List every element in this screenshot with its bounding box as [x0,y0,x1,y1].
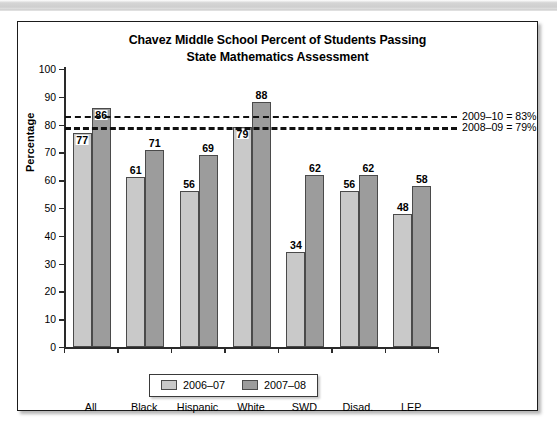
x-axis-tick [385,347,386,353]
y-axis-tick-label: 70 [44,147,56,158]
y-axis-tick [59,236,64,237]
x-axis-category-label: LEP [401,401,421,413]
bar: 71 [145,150,164,347]
x-axis-tick [278,347,279,353]
x-axis-category-label: White [237,401,265,413]
y-axis-tick-label: 80 [44,119,56,130]
bar-value-label: 58 [416,173,428,185]
bar: 34 [286,252,305,347]
reference-line-83 [65,116,457,118]
chart-title-line-1: Chavez Middle School Percent of Students… [129,33,426,47]
legend-label: 2007–08 [264,379,306,391]
chart-title-line-2: State Mathematics Assessment [18,49,537,66]
y-axis-tick-label: 100 [39,64,56,75]
bar: 86 [92,108,111,347]
y-axis-tick-label: 30 [44,258,56,269]
y-axis-tick-label: 60 [44,175,56,186]
x-axis-tick [224,347,225,353]
y-axis-tick-label: 90 [44,91,56,102]
x-axis-tick [438,347,439,353]
y-axis-tick [59,264,64,265]
legend-item: 2007–08 [242,379,306,391]
bar: 56 [180,191,199,347]
bar-value-label: 62 [309,162,321,174]
chart-container: Chavez Middle School Percent of Students… [17,21,538,411]
bar: 62 [305,175,324,347]
x-axis-category-label: SWD [292,401,317,413]
x-axis-tick [331,347,332,353]
y-axis-tick [59,69,64,70]
chart-title: Chavez Middle School Percent of Students… [18,32,537,65]
bar: 48 [393,214,412,347]
reference-line-79 [65,127,457,130]
y-axis-title: Percentage [24,113,36,172]
bar-value-label: 77 [76,135,89,145]
y-axis-tick [59,180,64,181]
bar-value-label: 88 [256,89,268,101]
bar: 69 [199,155,218,347]
bar-value-label: 79 [236,129,249,139]
bar: 58 [412,186,431,347]
scanned-page-edge-line [0,9,557,11]
bar-value-label: 69 [202,142,214,154]
x-axis-tick [117,347,118,353]
y-axis-tick [59,152,64,153]
x-axis-tick [171,347,172,353]
y-axis-tick-label: 50 [44,203,56,214]
bar-value-label: 61 [130,164,142,176]
x-axis-line [64,347,438,349]
bar: 79 [233,127,252,347]
bar-value-label: 48 [397,201,409,213]
bar-value-label: 86 [95,110,108,120]
bar: 77 [73,133,92,347]
legend-swatch [242,380,258,390]
x-axis-category-label: All [85,401,97,413]
bar: 61 [126,177,145,347]
y-axis-tick-label: 20 [44,286,56,297]
y-axis-tick [59,319,64,320]
x-axis-tick [64,347,65,353]
bar-value-label: 71 [149,137,161,149]
legend-label: 2006–07 [183,379,225,391]
y-axis-tick [59,125,64,126]
legend-item: 2006–07 [161,379,225,391]
plot-area: 01020304050607080901007786All6171Black56… [64,69,455,347]
bar: 88 [252,102,271,347]
bar-value-label: 62 [362,162,374,174]
y-axis-tick-label: 40 [44,230,56,241]
x-axis-category-label: Hispanic [177,401,218,413]
x-axis-category-label: Black [131,401,157,413]
x-axis-category-label: Disad. [343,401,374,413]
y-axis-tick [59,291,64,292]
bar: 56 [340,191,359,347]
legend-swatch [161,380,177,390]
bar-value-label: 34 [290,239,302,251]
y-axis-tick-label: 0 [50,342,56,353]
y-axis-tick [59,97,64,98]
bar-value-label: 56 [183,178,195,190]
chart-legend: 2006–072007–08 [149,374,318,397]
y-axis-tick [59,208,64,209]
bar: 62 [359,175,378,347]
y-axis-tick-label: 10 [44,314,56,325]
bar-value-label: 56 [343,178,355,190]
reference-line-label: 2008–09 = 79% [462,121,537,133]
